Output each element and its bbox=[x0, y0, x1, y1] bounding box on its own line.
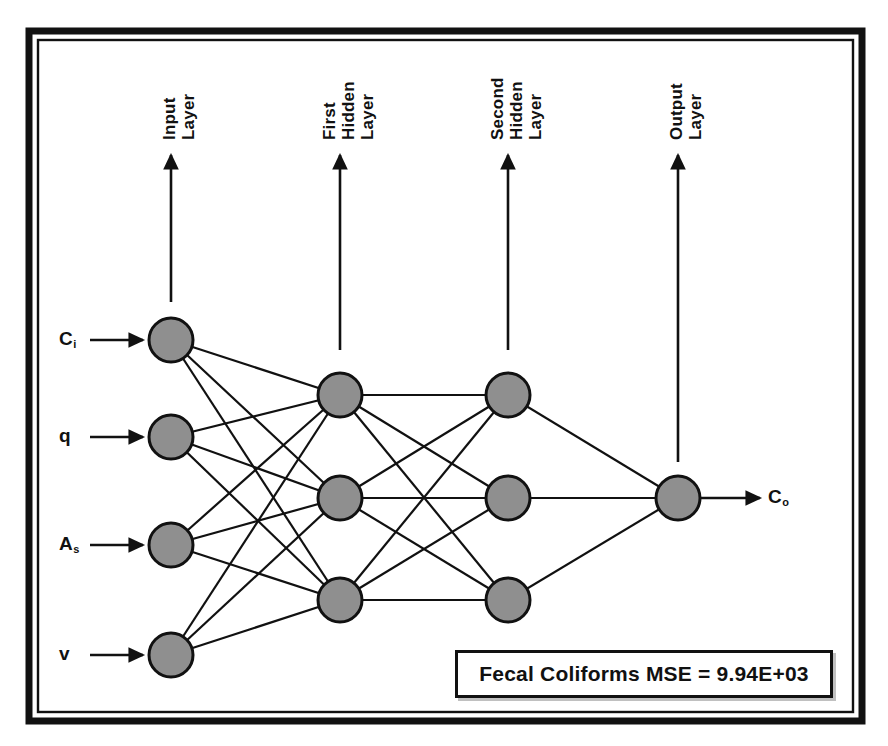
input-label-as-symbol: A bbox=[59, 533, 73, 554]
input-label-q: q bbox=[59, 425, 71, 447]
figure-frame bbox=[29, 31, 862, 721]
neuron-hidden1-2 bbox=[318, 476, 362, 520]
neurons-input-layer bbox=[149, 318, 193, 677]
edges-input-to-hidden1 bbox=[171, 340, 340, 655]
input-label-v: v bbox=[59, 643, 70, 665]
input-label-ci: Ci bbox=[59, 328, 76, 350]
edges-hidden2-to-output bbox=[508, 395, 678, 600]
neuron-output-1 bbox=[656, 476, 700, 520]
neurons-second-hidden-layer bbox=[486, 373, 530, 622]
neuron-input-3 bbox=[149, 523, 193, 567]
neural-network-figure: Input Layer First Hidden Layer Second Hi… bbox=[0, 0, 888, 746]
layer-pointer-arrows bbox=[171, 155, 678, 462]
output-label-co: Co bbox=[768, 486, 788, 508]
layer-label-second-hidden-line-3: Layer bbox=[526, 77, 545, 140]
input-feed-arrows bbox=[90, 340, 143, 655]
neuron-hidden2-2 bbox=[486, 476, 530, 520]
layer-label-first-hidden-line-3: Layer bbox=[358, 81, 377, 140]
output-label-co-symbol: C bbox=[768, 486, 782, 507]
input-label-q-symbol: q bbox=[59, 425, 71, 446]
neuron-hidden1-1 bbox=[318, 373, 362, 417]
layer-label-input: Input Layer bbox=[160, 94, 198, 140]
neuron-input-4 bbox=[149, 633, 193, 677]
layer-label-second-hidden: Second Hidden Layer bbox=[488, 77, 545, 140]
input-label-as: As bbox=[59, 533, 79, 555]
input-label-as-subscript: s bbox=[73, 543, 79, 555]
neuron-input-1 bbox=[149, 318, 193, 362]
layer-label-second-hidden-line-1: Second bbox=[488, 77, 507, 140]
neurons-first-hidden-layer bbox=[318, 373, 362, 622]
layer-label-first-hidden: First Hidden Layer bbox=[320, 81, 377, 140]
neuron-input-2 bbox=[149, 415, 193, 459]
network-canvas bbox=[0, 0, 888, 746]
input-label-ci-subscript: i bbox=[73, 338, 76, 350]
input-label-v-symbol: v bbox=[59, 643, 70, 664]
layer-label-output-line-1: Output bbox=[667, 83, 686, 140]
layer-label-input-line-2: Layer bbox=[179, 94, 198, 140]
mse-annotation-box: Fecal Coliforms MSE = 9.94E+03 bbox=[455, 650, 833, 698]
layer-label-input-line-1: Input bbox=[160, 94, 179, 140]
neuron-hidden1-3 bbox=[318, 578, 362, 622]
layer-label-second-hidden-line-2: Hidden bbox=[507, 77, 526, 140]
layer-label-first-hidden-line-1: First bbox=[320, 81, 339, 140]
neuron-hidden2-1 bbox=[486, 373, 530, 417]
mse-annotation-text: Fecal Coliforms MSE = 9.94E+03 bbox=[479, 662, 808, 686]
input-label-ci-symbol: C bbox=[59, 328, 73, 349]
layer-label-first-hidden-line-2: Hidden bbox=[339, 81, 358, 140]
layer-label-output: Output Layer bbox=[667, 83, 705, 140]
edges-hidden1-to-hidden2 bbox=[340, 395, 508, 600]
neurons-output-layer bbox=[656, 476, 700, 520]
layer-label-output-line-2: Layer bbox=[686, 83, 705, 140]
output-label-co-subscript: o bbox=[782, 496, 789, 508]
neuron-hidden2-3 bbox=[486, 578, 530, 622]
